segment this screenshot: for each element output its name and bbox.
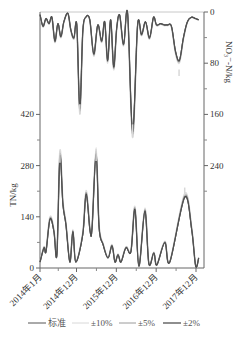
chart: 0140280420 080160240 2014年1月2014年12月2015…	[0, 0, 234, 339]
right-axis-title: NO₃⁻-N/kg	[224, 41, 234, 83]
x-tick-label: 2016年12月	[120, 272, 160, 312]
x-tick-label: 2014年1月	[7, 272, 43, 308]
left-tick-label: 0	[30, 263, 35, 273]
no3-line-2	[40, 10, 199, 131]
legend-label-2pct: ±2%	[183, 318, 200, 328]
x-tick-label: 2017年12月	[160, 272, 200, 312]
no3-line-std	[40, 10, 199, 130]
right-axis-ticks: 080160240	[204, 7, 224, 191]
right-tick-label: 80	[210, 58, 220, 68]
plot-frame	[40, 12, 204, 268]
tn-line-std	[40, 155, 199, 268]
right-tick-label: 0	[210, 7, 215, 17]
no3-line-10	[40, 10, 199, 137]
left-axis-title: TN/kg	[8, 183, 18, 207]
left-tick-label: 280	[21, 161, 35, 171]
x-tick-label: 2015年12月	[80, 272, 120, 312]
no3-line-5	[40, 10, 199, 134]
legend-label-10pct: ±10%	[91, 318, 113, 328]
x-tick-label: 2014年12月	[40, 272, 80, 312]
left-axis-ticks: 0140280420	[21, 109, 41, 273]
series-layer	[40, 10, 199, 267]
right-tick-label: 160	[210, 109, 224, 119]
x-axis-ticks: 2014年1月2014年12月2015年12月2016年12月2017年12月	[7, 268, 199, 311]
left-tick-label: 140	[21, 212, 35, 222]
right-tick-label: 240	[210, 161, 224, 171]
legend-label-standard: 标准	[48, 317, 66, 328]
legend-label-5pct: ±5%	[138, 318, 155, 328]
legend: 标准 ±10% ±5% ±2%	[28, 317, 200, 328]
left-tick-label: 420	[21, 109, 35, 119]
